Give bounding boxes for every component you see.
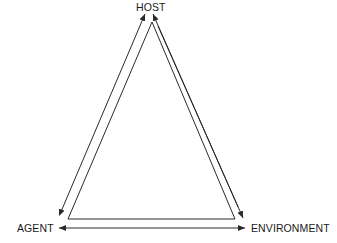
triangle-svg: [0, 0, 337, 243]
inner-right-edge: [152, 22, 235, 219]
inner-left-edge: [68, 22, 152, 219]
node-label-environment: ENVIRONMENT: [251, 223, 330, 234]
node-label-agent: AGENT: [17, 223, 54, 234]
triangle-diagram: HOST AGENT ENVIRONMENT: [0, 0, 337, 243]
edge-host-to-environment-arrow: [158, 26, 243, 218]
node-label-host: HOST: [136, 2, 166, 13]
edge-agent-to-host-arrow: [60, 14, 145, 214]
